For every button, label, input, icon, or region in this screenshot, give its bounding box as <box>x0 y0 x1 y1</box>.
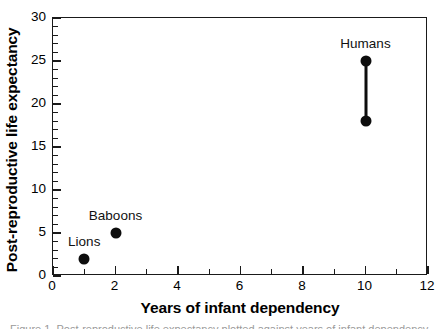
x-tick-label: 12 <box>419 279 434 293</box>
y-tick-label: 5 <box>18 225 46 239</box>
y-axis-tick-labels: 051015202530 <box>18 17 46 275</box>
x-tick-label: 10 <box>357 279 372 293</box>
y-tick-minor <box>53 215 58 216</box>
x-tick-label: 2 <box>111 279 119 293</box>
y-tick-major <box>53 103 61 104</box>
y-tick-minor <box>53 95 58 96</box>
figure-caption-sliver: Figure 1. Post-reproductive life expecta… <box>10 324 430 329</box>
y-tick-minor <box>53 207 58 208</box>
x-tick-minor <box>84 269 85 274</box>
y-tick-minor <box>53 267 58 268</box>
data-point <box>110 228 121 239</box>
y-tick-label: 20 <box>18 96 46 110</box>
y-tick-minor <box>53 35 58 36</box>
data-point-label: Baboons <box>89 209 142 223</box>
y-tick-minor <box>53 164 58 165</box>
y-tick-minor <box>53 86 58 87</box>
y-tick-label: 10 <box>18 182 46 196</box>
data-point-label: Lions <box>68 234 100 248</box>
y-tick-minor <box>53 78 58 79</box>
x-tick-major <box>115 266 116 274</box>
x-tick-minor <box>334 269 335 274</box>
y-tick-minor <box>53 112 58 113</box>
data-point-label: Humans <box>340 37 390 51</box>
y-tick-major <box>53 60 61 61</box>
x-tick-minor <box>209 269 210 274</box>
y-tick-minor <box>53 241 58 242</box>
y-tick-minor <box>53 258 58 259</box>
x-tick-label: 0 <box>48 279 56 293</box>
y-tick-minor <box>53 26 58 27</box>
y-tick-major <box>53 275 61 276</box>
x-tick-label: 6 <box>236 279 244 293</box>
plot-area: LionsBaboonsHumans <box>52 17 427 275</box>
x-tick-label: 8 <box>298 279 306 293</box>
x-tick-label: 4 <box>173 279 181 293</box>
y-tick-minor <box>53 224 58 225</box>
x-tick-major <box>240 266 241 274</box>
x-tick-major <box>427 266 428 274</box>
y-tick-major <box>53 17 61 18</box>
y-tick-minor <box>53 138 58 139</box>
x-tick-minor <box>146 269 147 274</box>
x-axis-tick-labels: 024681012 <box>52 279 427 297</box>
y-tick-minor <box>53 198 58 199</box>
y-tick-label: 25 <box>18 53 46 67</box>
x-tick-major <box>302 266 303 274</box>
y-tick-major <box>53 146 61 147</box>
y-axis-title-text: Post-reproductive life expectancy <box>3 28 19 273</box>
y-tick-label: 30 <box>18 10 46 24</box>
x-axis-title: Years of infant dependency <box>52 300 428 316</box>
data-point <box>360 116 371 127</box>
y-tick-minor <box>53 172 58 173</box>
x-tick-major <box>177 266 178 274</box>
chart-figure: Post-reproductive life expectancy LionsB… <box>0 0 439 329</box>
y-tick-major <box>53 232 61 233</box>
x-tick-major <box>365 266 366 274</box>
y-tick-minor <box>53 69 58 70</box>
y-tick-label: 0 <box>18 268 46 282</box>
data-point <box>79 253 90 264</box>
y-tick-minor <box>53 155 58 156</box>
y-tick-minor <box>53 250 58 251</box>
y-tick-minor <box>53 43 58 44</box>
y-tick-minor <box>53 52 58 53</box>
y-tick-minor <box>53 121 58 122</box>
range-connector-line <box>364 61 367 121</box>
y-tick-label: 15 <box>18 139 46 153</box>
y-tick-minor <box>53 129 58 130</box>
y-tick-minor <box>53 181 58 182</box>
data-point <box>360 56 371 67</box>
x-tick-minor <box>271 269 272 274</box>
y-tick-major <box>53 189 61 190</box>
x-tick-minor <box>396 269 397 274</box>
x-tick-major <box>52 266 53 274</box>
